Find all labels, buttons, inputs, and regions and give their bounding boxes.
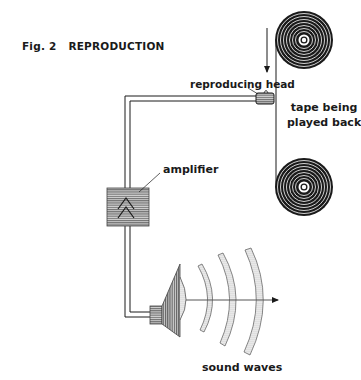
tape-label-line2: played back <box>287 115 361 130</box>
reproduction-diagram <box>0 0 361 380</box>
reproducing-head-label: reproducing head <box>190 78 295 90</box>
amplifier-label: amplifier <box>163 163 218 176</box>
tape-label-line1: tape being <box>287 100 361 115</box>
sound-waves-label: sound waves <box>202 361 282 374</box>
amplifier-icon <box>107 173 160 226</box>
take-up-reel-icon <box>275 158 333 216</box>
tape-label: tape being played back <box>287 100 361 130</box>
loudspeaker-icon <box>150 264 186 337</box>
supply-reel-icon <box>275 11 333 69</box>
sound-waves-icon <box>198 248 263 355</box>
